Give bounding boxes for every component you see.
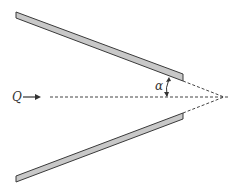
- top-plate-extension: [183, 81, 224, 97]
- flow-label: Q: [12, 90, 22, 104]
- angle-arrowhead-bottom: [164, 92, 169, 97]
- bottom-plate: [16, 113, 183, 182]
- angle-label: α: [155, 79, 163, 93]
- converging-plates-diagram: α Q: [0, 0, 238, 188]
- angle-arrowhead-top: [166, 77, 171, 82]
- bottom-plate-extension: [183, 97, 224, 113]
- flow-arrow-icon: [35, 94, 41, 100]
- top-plate: [16, 12, 183, 81]
